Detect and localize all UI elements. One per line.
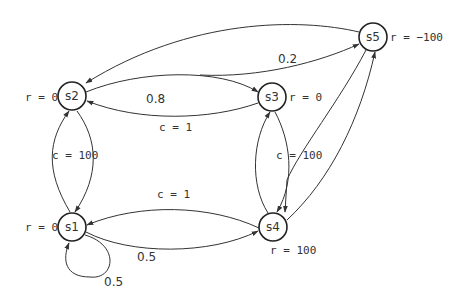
edge-s4-to-s3: [255, 112, 270, 213]
reward-label-s5: r = −100: [390, 31, 443, 44]
edge-s5-to-s4: [285, 50, 366, 212]
edge-label-s2-s3: 0.8: [146, 92, 165, 106]
node-s5: s5: [359, 23, 387, 51]
node-s4: s4: [259, 213, 287, 241]
node-s1: s1: [58, 213, 86, 241]
node-label-s1: s1: [65, 220, 79, 234]
reward-label-s1: r = 0: [25, 221, 58, 234]
edge-s1-to-s4: [86, 231, 258, 249]
node-label-s2: s2: [65, 89, 79, 103]
edge-s2-to-s3: [86, 75, 258, 92]
edge-label-s4-s1: c = 1: [157, 188, 190, 201]
edge-s5-to-s2: [86, 25, 359, 83]
edge-s3-to-s2: [87, 101, 258, 116]
edge-label-s2-s5: 0.2: [278, 52, 297, 66]
edge-s4-to-s1: [87, 210, 259, 228]
reward-label-s4: r = 100: [270, 244, 316, 257]
node-s3: s3: [258, 83, 286, 111]
edge-label-s1-loop: 0.5: [104, 275, 123, 289]
edge-s3-to-s4: [275, 112, 289, 212]
node-label-s4: s4: [266, 220, 280, 234]
reward-label-s3: r = 0: [289, 91, 322, 104]
node-label-s3: s3: [265, 90, 279, 104]
mdp-diagram: 0.8 0.2 c = 1 c = 100 c = 1 0.5 0.5 c = …: [0, 0, 458, 303]
node-label-s5: s5: [366, 30, 380, 44]
edge-s4-to-s5: [287, 52, 375, 220]
reward-label-s2: r = 0: [25, 91, 58, 104]
edge-label-s3-s2: c = 1: [159, 121, 192, 134]
edge-label-s2-s1: c = 100: [52, 149, 98, 162]
edge-label-s3-s4: c = 100: [276, 149, 322, 162]
node-s2: s2: [58, 82, 86, 110]
edge-label-s1-s4: 0.5: [137, 250, 156, 264]
